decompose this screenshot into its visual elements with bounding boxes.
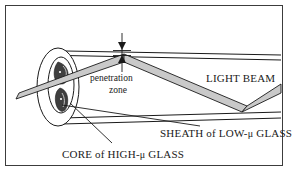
penetration-zone-label-line1: penetration	[90, 73, 133, 83]
core-label: CORE of HIGH-μ GLASS	[62, 148, 184, 160]
light-beam-label: LIGHT BEAM	[206, 72, 275, 84]
fiber-optic-diagram: LIGHT BEAM penetration zone SHEATH of LO…	[0, 0, 298, 175]
sheath-label-prefix: SHEATH of LOW-	[160, 127, 248, 139]
sheath-label-suffix: GLASS	[253, 127, 292, 139]
sheath-label: SHEATH of LOW-μ GLASS	[160, 127, 292, 139]
core-label-suffix: GLASS	[145, 148, 184, 160]
core-label-prefix: CORE of HIGH-	[62, 148, 140, 160]
penetration-zone-label-line2: zone	[109, 85, 127, 95]
